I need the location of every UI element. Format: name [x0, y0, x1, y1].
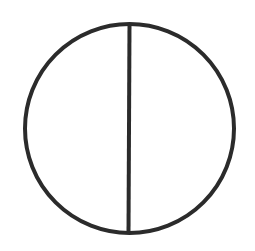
bisected-circle-diagram [0, 0, 255, 251]
vertical-diameter-line [129, 24, 130, 233]
